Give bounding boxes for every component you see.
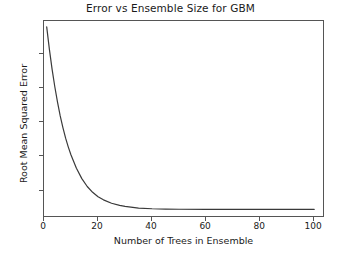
x-axis-label: Number of Trees in Ensemble (43, 235, 324, 246)
y-axis-label: Root Mean Squared Error (18, 24, 29, 224)
y-tick-mark (39, 155, 43, 156)
x-tick-label: 0 (23, 221, 63, 231)
y-tick-mark (39, 190, 43, 191)
x-tick-mark (43, 217, 44, 221)
plot-area (43, 20, 324, 217)
y-tick-mark (39, 87, 43, 88)
chart-figure: Error vs Ensemble Size for GBM Number of… (0, 0, 341, 261)
x-tick-mark (313, 217, 314, 221)
x-tick-label: 100 (293, 221, 333, 231)
x-tick-mark (259, 217, 260, 221)
x-tick-mark (97, 217, 98, 221)
curve-polyline (47, 27, 314, 210)
line-series-gbm-rmse (44, 21, 325, 218)
y-tick-mark (39, 53, 43, 54)
x-tick-label: 40 (131, 221, 171, 231)
x-tick-mark (151, 217, 152, 221)
x-tick-label: 80 (239, 221, 279, 231)
y-tick-mark (39, 121, 43, 122)
x-tick-mark (205, 217, 206, 221)
chart-title: Error vs Ensemble Size for GBM (0, 2, 341, 14)
x-tick-label: 20 (77, 221, 117, 231)
x-tick-label: 60 (185, 221, 225, 231)
